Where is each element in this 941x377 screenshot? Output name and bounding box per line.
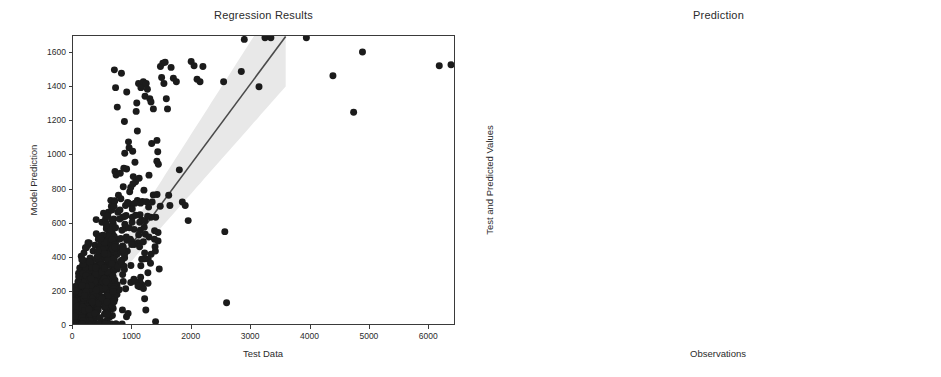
scatter-point: [160, 80, 167, 87]
x-tick-label: 0: [70, 331, 75, 341]
scatter-point: [79, 256, 86, 263]
scatter-point: [81, 292, 88, 299]
scatter-point: [125, 138, 132, 145]
scatter-point: [103, 298, 110, 305]
scatter-point: [144, 86, 151, 93]
x-tick-mark: [428, 325, 429, 329]
y-tick-label: 1200: [34, 115, 66, 125]
scatter-point: [199, 63, 206, 70]
scatter-point: [350, 109, 357, 116]
scatter-point: [241, 36, 248, 43]
x-tick-label: 5000: [359, 331, 378, 341]
scatter-point: [448, 61, 454, 68]
scatter-point: [359, 49, 366, 56]
scatter-point: [129, 148, 136, 155]
scatter-point: [191, 62, 198, 69]
y-tick-mark: [69, 291, 73, 292]
scatter-point: [114, 104, 121, 111]
scatter-point: [137, 262, 144, 269]
scatter-point: [101, 265, 108, 272]
x-tick-label: 4000: [300, 331, 319, 341]
scatter-point: [125, 310, 132, 317]
scatter-point: [147, 260, 154, 267]
scatter-point: [197, 78, 204, 85]
scatter-point: [182, 202, 189, 209]
scatter-point: [111, 203, 118, 210]
scatter-point: [108, 260, 115, 267]
scatter-point: [151, 227, 158, 234]
scatter-point: [112, 224, 119, 231]
scatter-point: [436, 62, 443, 69]
scatter-point: [158, 74, 165, 81]
regression-y-axis-label: Model Prediction: [28, 145, 39, 216]
scatter-point: [238, 68, 245, 75]
scatter-point: [134, 283, 141, 290]
y-tick-mark: [69, 86, 73, 87]
prediction-x-axis-label: Observations: [690, 348, 746, 359]
scatter-point: [136, 175, 143, 182]
scatter-point: [142, 307, 149, 314]
scatter-point: [133, 99, 140, 106]
y-tick-mark: [69, 189, 73, 190]
x-tick-label: 3000: [241, 331, 260, 341]
scatter-point: [185, 217, 192, 224]
scatter-point: [133, 108, 140, 115]
scatter-point: [128, 241, 135, 248]
scatter-point: [166, 202, 173, 209]
figure-canvas: Regression Results 010002000300040005000…: [0, 0, 941, 377]
scatter-point: [173, 78, 180, 85]
scatter-point: [124, 199, 131, 206]
scatter-point: [163, 95, 170, 102]
scatter-point: [144, 213, 151, 220]
scatter-point: [118, 70, 125, 77]
scatter-point: [118, 227, 125, 234]
scatter-point: [112, 321, 119, 324]
prediction-panel: Prediction Test data Predicted data 0100…: [470, 0, 941, 377]
scatter-point: [111, 244, 118, 251]
scatter-point: [83, 244, 90, 251]
scatter-point: [138, 256, 145, 263]
scatter-point: [132, 212, 139, 219]
y-tick-label: 1400: [34, 81, 66, 91]
scatter-point: [150, 105, 157, 112]
prediction-chart-title: Prediction: [527, 9, 910, 21]
x-tick-label: 1000: [122, 331, 141, 341]
scatter-point: [121, 150, 128, 157]
scatter-point: [116, 207, 123, 214]
y-tick-label: 600: [34, 218, 66, 228]
scatter-point: [143, 198, 150, 205]
scatter-point: [120, 183, 127, 190]
scatter-point: [103, 221, 110, 228]
scatter-point: [145, 233, 152, 240]
prediction-y-axis-label: Test and Predicted Values: [484, 125, 495, 235]
y-tick-label: 400: [34, 252, 66, 262]
scatter-point: [168, 64, 175, 71]
scatter-point: [221, 228, 228, 235]
scatter-point: [123, 166, 130, 173]
scatter-point: [143, 80, 150, 87]
scatter-point: [131, 159, 138, 166]
scatter-point: [112, 84, 119, 91]
y-tick-label: 0: [34, 320, 66, 330]
x-tick-label: 2000: [181, 331, 200, 341]
scatter-point: [146, 172, 153, 179]
scatter-point: [162, 59, 169, 66]
x-tick-mark: [72, 325, 73, 329]
scatter-point: [152, 318, 159, 324]
scatter-point: [154, 148, 161, 155]
scatter-point: [95, 248, 102, 255]
x-tick-mark: [131, 325, 132, 329]
scatter-point: [103, 278, 110, 285]
scatter-point: [129, 181, 136, 188]
y-tick-mark: [69, 223, 73, 224]
scatter-point: [141, 295, 148, 302]
scatter-point: [109, 217, 116, 224]
scatter-point: [97, 235, 104, 242]
scatter-point: [121, 266, 128, 273]
scatter-point: [220, 78, 227, 85]
scatter-point: [123, 88, 130, 95]
x-tick-mark: [310, 325, 311, 329]
scatter-point: [223, 299, 230, 306]
scatter-point: [129, 206, 136, 213]
scatter-point: [141, 250, 148, 257]
